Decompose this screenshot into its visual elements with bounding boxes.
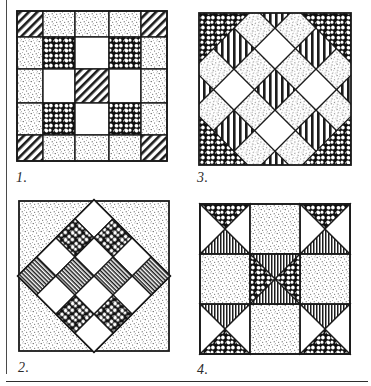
quilt-block-3: [196, 10, 354, 168]
quilt-block-2-artwork: [16, 198, 172, 354]
quilt-block-2-label: 2.: [18, 360, 30, 376]
quilt-block-4: [196, 200, 354, 358]
quilt-block-1: [14, 8, 170, 164]
quilt-diagram-page: 1.: [0, 0, 371, 386]
quilt-block-4-label: 4.: [197, 362, 209, 378]
quilt-block-1-artwork: [14, 8, 170, 164]
page-bottom-rule: [6, 381, 368, 382]
quilt-block-3-label: 3.: [197, 170, 209, 186]
quilt-block-3-artwork: [196, 10, 354, 168]
quilt-block-4-artwork: [196, 200, 354, 358]
quilt-block-1-label: 1.: [16, 170, 28, 186]
page-margin-rule: [6, 0, 7, 374]
quilt-block-2: [16, 198, 172, 354]
